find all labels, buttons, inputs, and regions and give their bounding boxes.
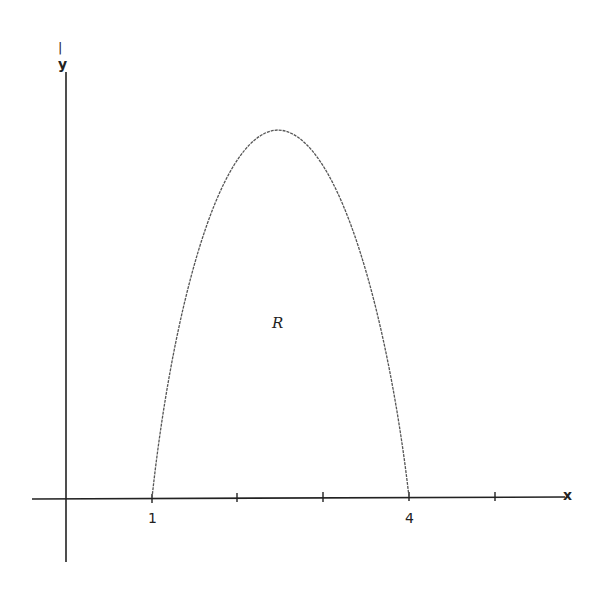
x-tick-label-4: 4 — [405, 510, 414, 526]
y-axis-label: y — [58, 56, 67, 72]
x-axis-label: x — [563, 487, 572, 503]
x-axis — [32, 497, 565, 499]
x-tick-label-1: 1 — [148, 510, 157, 526]
graph-canvas — [0, 0, 605, 595]
y-axis-arrow-mark: | — [58, 40, 62, 55]
region-label: R — [272, 314, 283, 332]
